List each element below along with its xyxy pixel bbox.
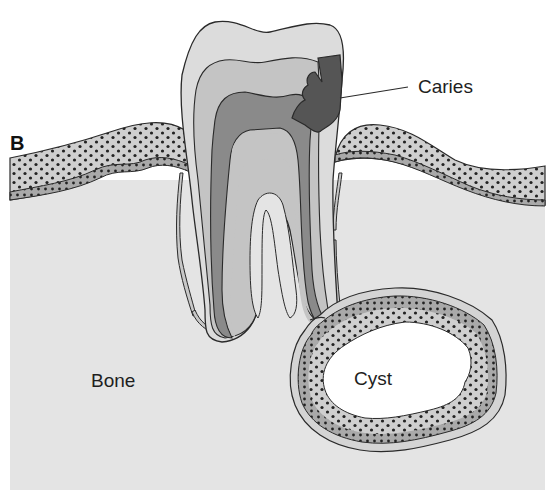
cyst [290,288,506,452]
caries-leader-line [340,87,408,98]
caries-label: Caries [418,76,473,98]
panel-letter: B [10,132,24,155]
bone-label: Bone [91,370,135,392]
tooth-cyst-diagram [0,0,551,498]
cyst-label: Cyst [354,368,392,390]
